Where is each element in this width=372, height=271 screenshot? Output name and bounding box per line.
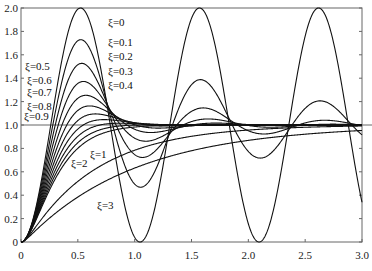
annotations: ξ=0 ξ=0.1 ξ=0.2 ξ=0.3 ξ=0.4 ξ=0.5 ξ=0.6 … [24, 16, 133, 212]
x-tick-label: 1.0 [128, 249, 142, 261]
y-tick-label: 0.2 [4, 213, 18, 225]
x-tick-label: 0 [18, 249, 24, 261]
y-tick-label: 1.2 [4, 96, 18, 108]
label-zeta-0: ξ=0 [108, 16, 125, 29]
y-tick-label: 1.0 [4, 119, 18, 131]
curve-ξ=2 [21, 126, 362, 242]
label-zeta-0.1: ξ=0.1 [108, 36, 133, 49]
label-zeta-0.3: ξ=0.3 [108, 65, 133, 78]
label-zeta-0.5: ξ=0.5 [25, 60, 50, 73]
curve-ξ=0.8 [21, 123, 362, 242]
label-zeta-1: ξ=1 [90, 148, 107, 161]
y-tick-label: 1.6 [4, 49, 18, 61]
x-tick-label: 2.0 [241, 249, 255, 261]
y-tick-label: 0.8 [4, 142, 18, 154]
label-zeta-2: ξ=2 [71, 157, 88, 170]
curve-ξ=0.6 [21, 114, 362, 242]
x-tick-label: 2.5 [298, 249, 312, 261]
y-tick-label: 0.6 [4, 166, 18, 178]
x-tick-label: 1.5 [185, 249, 199, 261]
curve-ξ=0.7 [21, 120, 362, 242]
y-tick-label: 1.4 [4, 72, 18, 84]
x-tick-label: 3.0 [355, 249, 369, 261]
y-tick-label: 2.0 [4, 2, 18, 14]
label-zeta-0.4: ξ=0.4 [108, 79, 133, 92]
x-tick-label: 0.5 [71, 249, 85, 261]
y-tick-label: 0.4 [4, 189, 18, 201]
curve-ξ=0.1 [21, 40, 362, 242]
label-zeta-0.7: ξ=0.7 [27, 86, 52, 99]
step-response-chart: 00.20.40.60.81.01.21.41.61.82.0 00.51.01… [0, 0, 372, 271]
y-tick-label: 1.8 [4, 25, 18, 37]
label-zeta-0.9: ξ=0.9 [24, 110, 49, 123]
label-zeta-0.2: ξ=0.2 [108, 50, 133, 63]
label-zeta-3: ξ=3 [97, 199, 114, 212]
y-tick-label: 0 [13, 236, 19, 248]
